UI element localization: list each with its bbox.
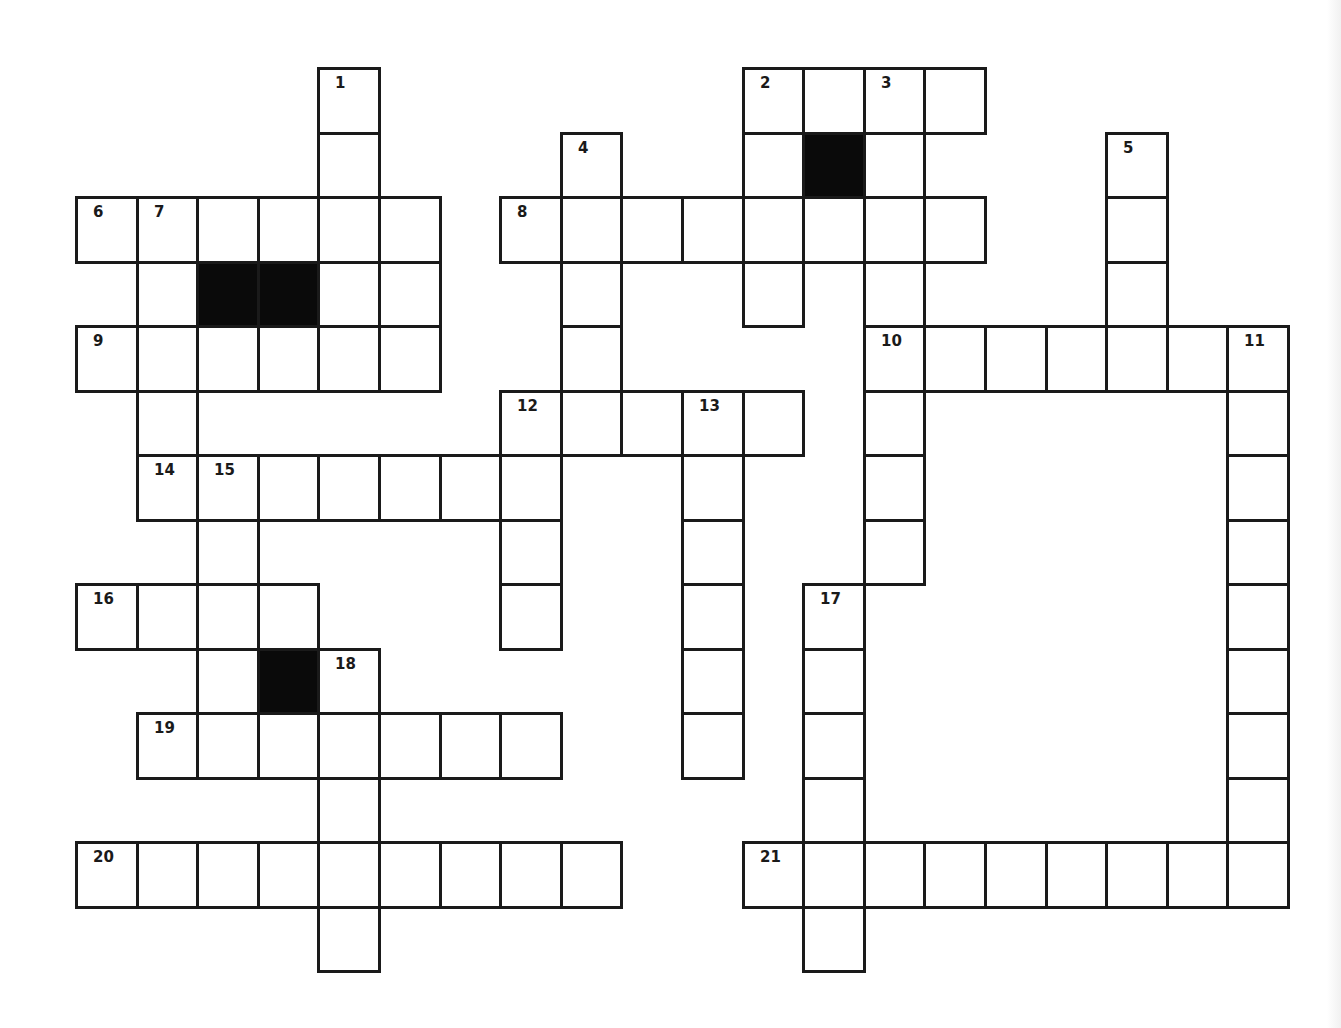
crossword-cell[interactable]: [863, 519, 926, 586]
cell-letter-input[interactable]: [805, 586, 863, 648]
crossword-cell[interactable]: [499, 712, 563, 780]
crossword-cell[interactable]: 15: [196, 454, 260, 522]
cell-letter-input[interactable]: [866, 328, 923, 390]
crossword-cell[interactable]: [1226, 648, 1290, 715]
cell-letter-input[interactable]: [1108, 844, 1166, 906]
cell-letter-input[interactable]: [139, 328, 196, 390]
crossword-cell[interactable]: [681, 583, 745, 651]
cell-letter-input[interactable]: [866, 70, 923, 132]
crossword-cell[interactable]: 18: [317, 648, 381, 715]
crossword-cell[interactable]: 20: [75, 841, 139, 909]
crossword-cell[interactable]: [317, 132, 381, 199]
cell-letter-input[interactable]: [78, 586, 136, 648]
cell-letter-input[interactable]: [381, 844, 439, 906]
cell-letter-input[interactable]: [502, 844, 560, 906]
crossword-cell[interactable]: 16: [75, 583, 139, 651]
cell-letter-input[interactable]: [805, 651, 863, 712]
crossword-cell[interactable]: [136, 261, 199, 328]
crossword-cell[interactable]: [1226, 454, 1290, 522]
cell-letter-input[interactable]: [260, 457, 317, 519]
crossword-cell[interactable]: [1045, 841, 1108, 909]
cell-letter-input[interactable]: [1229, 457, 1287, 519]
cell-letter-input[interactable]: [260, 586, 317, 648]
crossword-cell[interactable]: [681, 519, 745, 586]
cell-letter-input[interactable]: [684, 199, 742, 261]
crossword-cell[interactable]: [802, 67, 866, 135]
cell-letter-input[interactable]: [805, 70, 863, 132]
cell-letter-input[interactable]: [866, 264, 923, 325]
cell-letter-input[interactable]: [381, 715, 439, 777]
crossword-cell[interactable]: [196, 196, 260, 264]
crossword-cell[interactable]: [620, 196, 684, 264]
cell-letter-input[interactable]: [1229, 393, 1287, 454]
crossword-cell[interactable]: [1105, 841, 1169, 909]
cell-letter-input[interactable]: [320, 651, 378, 712]
cell-letter-input[interactable]: [684, 651, 742, 712]
crossword-cell[interactable]: [317, 196, 381, 264]
cell-letter-input[interactable]: [745, 844, 802, 906]
crossword-cell[interactable]: [136, 325, 199, 393]
crossword-cell[interactable]: 5: [1105, 132, 1169, 199]
crossword-cell[interactable]: 21: [742, 841, 805, 909]
crossword-cell[interactable]: [1105, 196, 1169, 264]
cell-letter-input[interactable]: [745, 393, 802, 454]
crossword-cell[interactable]: [802, 841, 866, 909]
cell-letter-input[interactable]: [563, 393, 620, 454]
cell-letter-input[interactable]: [926, 199, 984, 261]
crossword-cell[interactable]: [1226, 583, 1290, 651]
crossword-cell[interactable]: 9: [75, 325, 139, 393]
cell-letter-input[interactable]: [1229, 780, 1287, 841]
crossword-cell[interactable]: [257, 196, 320, 264]
crossword-cell[interactable]: [1226, 390, 1290, 457]
cell-letter-input[interactable]: [926, 70, 984, 132]
crossword-cell[interactable]: [1045, 325, 1108, 393]
cell-letter-input[interactable]: [199, 457, 257, 519]
cell-letter-input[interactable]: [866, 457, 923, 519]
cell-letter-input[interactable]: [1229, 522, 1287, 583]
crossword-cell[interactable]: [378, 325, 442, 393]
crossword-cell[interactable]: [1105, 325, 1169, 393]
crossword-cell[interactable]: 19: [136, 712, 199, 780]
crossword-cell[interactable]: [257, 454, 320, 522]
cell-letter-input[interactable]: [1108, 199, 1166, 261]
crossword-cell[interactable]: [317, 906, 381, 973]
cell-letter-input[interactable]: [199, 651, 257, 712]
crossword-cell[interactable]: [560, 390, 623, 457]
crossword-cell[interactable]: 11: [1226, 325, 1290, 393]
cell-letter-input[interactable]: [805, 844, 863, 906]
cell-letter-input[interactable]: [926, 844, 984, 906]
crossword-cell[interactable]: [802, 648, 866, 715]
cell-letter-input[interactable]: [563, 844, 620, 906]
cell-letter-input[interactable]: [320, 328, 378, 390]
cell-letter-input[interactable]: [381, 264, 439, 325]
crossword-cell[interactable]: [742, 132, 805, 199]
crossword-cell[interactable]: [984, 325, 1048, 393]
crossword-cell[interactable]: [257, 325, 320, 393]
crossword-cell[interactable]: [136, 390, 199, 457]
crossword-cell[interactable]: [499, 454, 563, 522]
cell-letter-input[interactable]: [1169, 328, 1226, 390]
crossword-cell[interactable]: [378, 841, 442, 909]
crossword-cell[interactable]: [1226, 712, 1290, 780]
crossword-cell[interactable]: [1226, 841, 1290, 909]
cell-letter-input[interactable]: [502, 715, 560, 777]
crossword-cell[interactable]: [742, 261, 805, 328]
cell-letter-input[interactable]: [320, 844, 378, 906]
cell-letter-input[interactable]: [78, 844, 136, 906]
cell-letter-input[interactable]: [442, 844, 499, 906]
cell-letter-input[interactable]: [502, 393, 560, 454]
crossword-cell[interactable]: [984, 841, 1048, 909]
cell-letter-input[interactable]: [866, 522, 923, 583]
cell-letter-input[interactable]: [78, 328, 136, 390]
crossword-cell[interactable]: [802, 777, 866, 844]
crossword-cell[interactable]: [1105, 261, 1169, 328]
cell-letter-input[interactable]: [381, 199, 439, 261]
crossword-cell[interactable]: [378, 712, 442, 780]
cell-letter-input[interactable]: [745, 199, 802, 261]
cell-letter-input[interactable]: [320, 457, 378, 519]
cell-letter-input[interactable]: [1108, 328, 1166, 390]
cell-letter-input[interactable]: [1048, 844, 1105, 906]
crossword-cell[interactable]: [1226, 519, 1290, 586]
crossword-cell[interactable]: [439, 712, 502, 780]
crossword-cell[interactable]: 8: [499, 196, 563, 264]
